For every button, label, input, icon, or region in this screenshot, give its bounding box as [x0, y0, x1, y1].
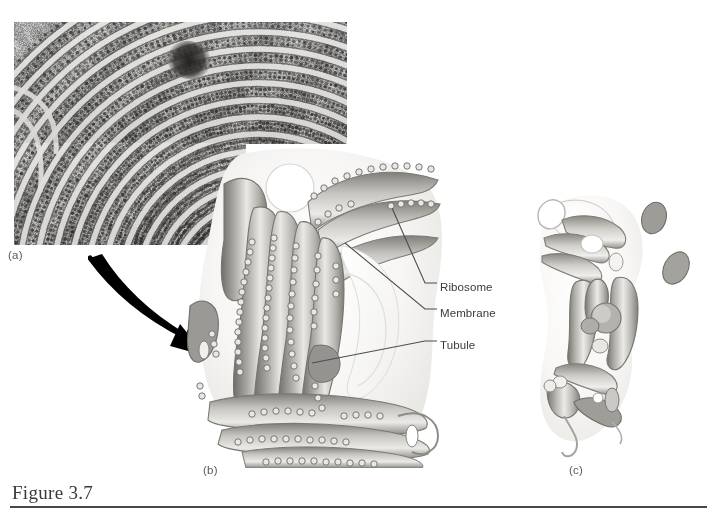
micrograph-canvas-bottom — [14, 143, 246, 245]
micrograph-canvas-top — [14, 22, 347, 144]
figure-caption: Figure 3.7 — [12, 482, 93, 504]
caption-divider — [10, 506, 707, 508]
panel-a-micrograph-lower — [14, 143, 246, 245]
magnification-arrow — [88, 252, 228, 370]
panel-a-micrograph — [14, 22, 347, 144]
panel-c-smooth-er-illustration — [520, 186, 700, 464]
callout-label-tubule: Tubule — [440, 339, 475, 351]
callout-label-ribosome: Ribosome — [440, 281, 493, 293]
panel-label-b: (b) — [203, 464, 218, 476]
panel-label-a: (a) — [8, 249, 23, 261]
figure-page: Ribosome Membrane Tubule (a) (b) (c) Fig… — [0, 0, 713, 514]
callout-label-membrane: Membrane — [440, 307, 496, 319]
panel-label-c: (c) — [569, 464, 583, 476]
